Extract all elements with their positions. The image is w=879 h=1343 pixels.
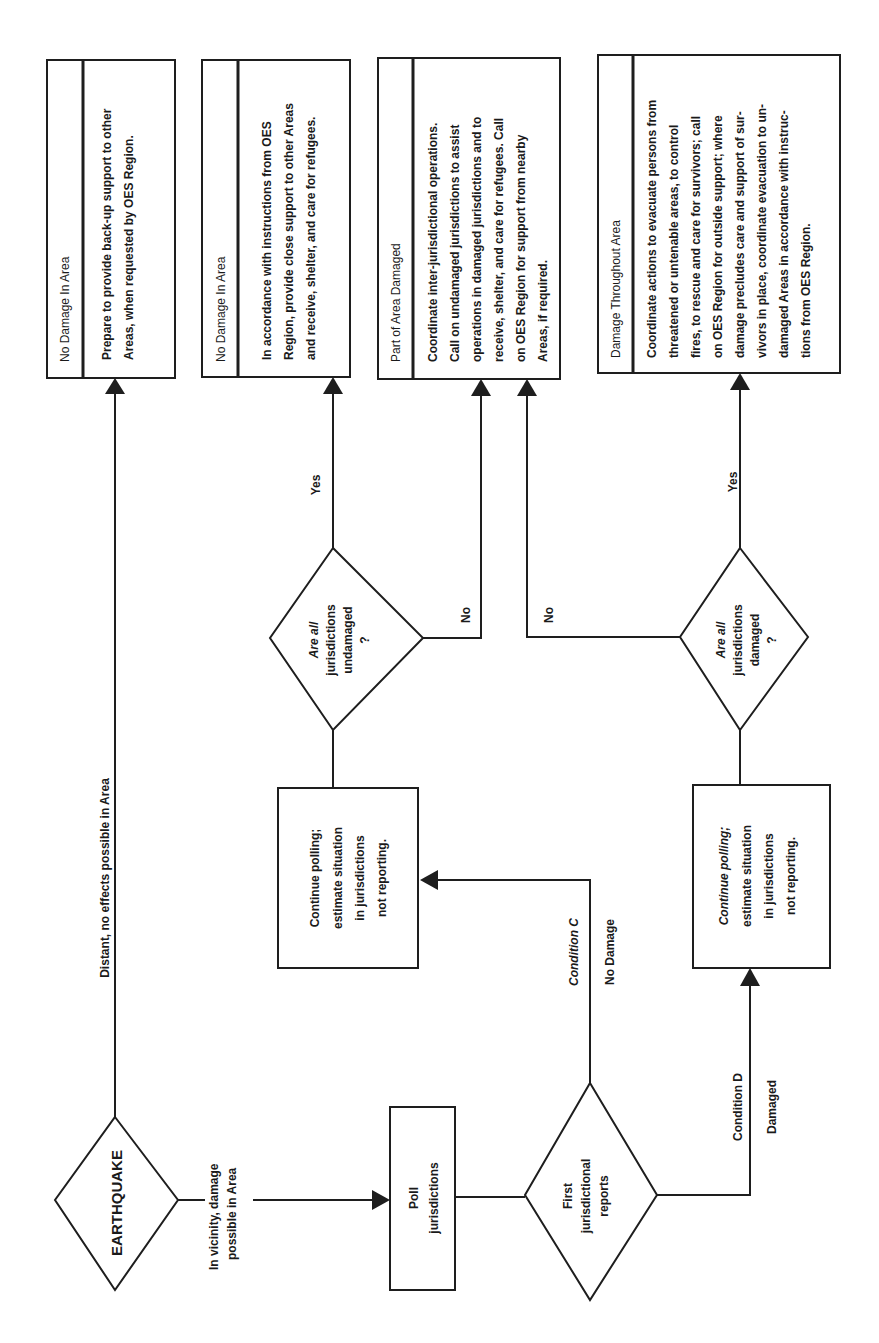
polling-d-line-1: Continue polling; xyxy=(717,827,731,926)
arrow-head-icon xyxy=(730,373,750,390)
outcome-4-title: Damage Throughout Area xyxy=(609,220,623,358)
polling-c-line-2: estimate situation xyxy=(331,827,345,929)
decision-undamaged-line-2: jurisdictions xyxy=(324,604,338,677)
outcome-box-part-damaged xyxy=(378,58,560,379)
outcome-4-line-2: threatened or untenable areas, to contro… xyxy=(667,125,681,358)
edge-no-undamaged xyxy=(423,394,481,638)
edge-label-condition-d: Condition D xyxy=(731,1073,745,1141)
outcome-4-line-3: fires, to rescue and care for survivors;… xyxy=(689,116,703,358)
earthquake-label: EARTHQUAKE xyxy=(108,1150,125,1256)
arrow-head-icon xyxy=(323,377,343,394)
polling-c-line-4: not reporting. xyxy=(375,839,389,917)
decision-undamaged-line-4: ? xyxy=(358,636,372,643)
polling-d-line-2: estimate situation xyxy=(740,825,754,927)
arrow-head-icon xyxy=(372,1190,390,1210)
edge-label-damaged: Damaged xyxy=(765,1080,779,1134)
edge-label-distant: Distant, no effects possible in Area xyxy=(98,778,112,978)
edge-label-no-damage: No Damage xyxy=(603,919,617,985)
outcome-3-line-3: operations in damaged jurisdictions and … xyxy=(470,117,484,362)
edge-label-condition-c: Condition C xyxy=(567,918,581,986)
edge-label-vicinity-2: possible in Area xyxy=(225,1167,239,1260)
outcome-4-line-7: damaged Areas in accordance with instruc… xyxy=(777,110,791,358)
arrow-head-icon xyxy=(420,870,438,890)
outcome-1-line-1: Prepare to provide back-up support to ot… xyxy=(100,108,114,360)
polling-c-line-3: in jurisdictions xyxy=(353,835,367,921)
first-reports-label-3: reports xyxy=(597,1175,611,1217)
polling-d-line-3: in jurisdictions xyxy=(762,833,776,919)
outcome-2-line-3: and receive, shelter, and care for refug… xyxy=(304,117,318,360)
outcome-4-line-6: vivors in place, coordinate evacuation t… xyxy=(755,104,769,358)
poll-label-1: Poll xyxy=(407,1187,421,1209)
outcome-2-title: No Damage In Area xyxy=(214,256,228,362)
outcome-3-line-1: Coordinate inter-jurisdictional operatio… xyxy=(426,123,440,362)
arrow-head-icon xyxy=(471,379,491,396)
outcome-3-line-5: on OES Region for support from nearby xyxy=(514,134,528,362)
decision-undamaged-line-1: Are all xyxy=(307,621,321,659)
decision-damaged-line-4: ? xyxy=(765,636,779,643)
outcome-1-title: No Damage In Area xyxy=(58,256,72,362)
polling-c-line-1: Continue polling; xyxy=(308,829,322,928)
outcome-4-line-5: damage precludes care and support of sur… xyxy=(733,111,747,358)
edge-label-no-undamaged: No xyxy=(459,607,473,623)
poll-jurisdictions-box xyxy=(390,1107,455,1290)
arrow-head-icon xyxy=(105,378,125,394)
outcome-3-line-6: Areas, if required. xyxy=(536,260,550,362)
edge-label-yes-undamaged: Yes xyxy=(309,474,323,495)
arrow-head-icon xyxy=(517,379,537,396)
first-reports-label-1: First xyxy=(561,1183,575,1209)
edge-label-vicinity-1: In vicinity, damage xyxy=(207,1163,221,1270)
edge-label-no-damaged: No xyxy=(542,607,556,623)
edge-label-yes-damaged: Yes xyxy=(726,471,740,492)
polling-d-line-4: not reporting. xyxy=(784,837,798,915)
first-reports-label-2: jurisdictional xyxy=(579,1159,593,1235)
outcome-3-title: Part of Area Damaged xyxy=(389,243,403,362)
outcome-3-line-2: Call on undamaged jurisdictions to assis… xyxy=(448,125,462,362)
poll-label-2: jurisdictions xyxy=(427,1162,441,1235)
decision-undamaged-line-3: undamaged xyxy=(341,606,355,673)
outcome-2-line-1: In accordance with instructions from OES xyxy=(260,121,274,360)
outcome-4-line-4: on OES Region for outside support; where xyxy=(711,115,725,358)
outcome-3-line-4: receive, shelter, and care for refugees.… xyxy=(492,118,506,362)
outcome-4-line-1: Coordinate actions to evacuate persons f… xyxy=(645,100,659,358)
earthquake-response-flowchart: EARTHQUAKE Distant, no effects possible … xyxy=(0,0,879,1343)
edge-no-damaged xyxy=(527,394,680,637)
outcome-4-line-8: tions from OES Region. xyxy=(799,223,813,358)
decision-damaged-line-2: jurisdictions xyxy=(731,604,745,677)
arrow-head-icon xyxy=(740,968,760,986)
outcome-1-line-2: Areas, when requested by OES Region. xyxy=(122,135,136,360)
continue-polling-c-box xyxy=(278,788,418,968)
decision-damaged-line-3: damaged xyxy=(748,614,762,667)
decision-damaged-line-1: Are all xyxy=(714,621,728,659)
outcome-2-line-2: Region, provide close support to other A… xyxy=(282,103,296,360)
